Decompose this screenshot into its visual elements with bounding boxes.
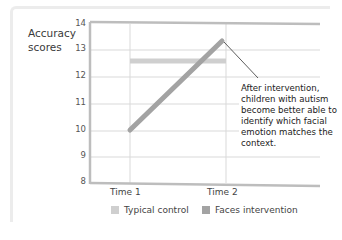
- legend-swatch-icon: [202, 206, 210, 214]
- legend-label: Faces intervention: [215, 205, 298, 215]
- legend-swatch-icon: [111, 206, 119, 214]
- x-tick-time2: Time 2: [207, 187, 238, 197]
- legend-label: Typical control: [124, 205, 189, 215]
- legend-item-faces-intervention: Faces intervention: [202, 205, 298, 215]
- x-tick-time1: Time 1: [110, 187, 141, 197]
- legend-item-typical-control: Typical control: [111, 205, 189, 215]
- annotation-text: After intervention, children with autism…: [239, 82, 342, 150]
- series-faces-intervention: [130, 41, 222, 130]
